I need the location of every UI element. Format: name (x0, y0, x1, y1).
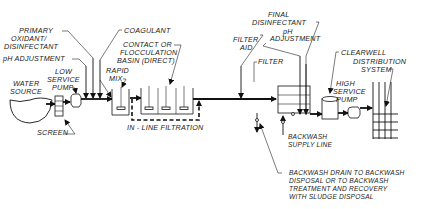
final-disinfectant-label: DISINFECTANT (252, 18, 307, 27)
backwash-drain-label: BACKWASH DRAIN TO BACKWASH (289, 169, 405, 176)
flocculation-basin (141, 86, 193, 114)
water-source-label: SOURCE (10, 87, 42, 96)
leader-line (260, 124, 282, 173)
leader-line (386, 69, 393, 106)
coagulant-label: COAGULANT (124, 26, 171, 35)
leader-line (72, 59, 86, 66)
backwash-supply-label: SUPPLY LINE (288, 141, 332, 148)
primary-oxidant-label: DISINFECTANT (4, 42, 59, 51)
contact-basin-label: BASIN (DIRECT) (117, 56, 175, 65)
leader-line (263, 43, 300, 56)
high-service-pump-label: PUMP (336, 95, 358, 104)
backwash-drain-label: TREATMENT AND RECOVERY (289, 185, 388, 192)
low-service-pump (71, 94, 81, 107)
process-flow-diagram: WATER SOURCE SCREEN LOW SERVICE PUMP PRI… (0, 0, 423, 209)
distribution-system-label: SYSTEM (361, 65, 392, 74)
valve-icon (292, 113, 295, 116)
clearwell-label: CLEARWELL (341, 48, 386, 57)
leader-line (62, 31, 93, 58)
backwash-drain-label: WITH SLUDGE DISPOSAL (289, 193, 374, 200)
valve-icon (282, 121, 285, 124)
low-service-pump-label: PUMP (52, 83, 74, 92)
screen (55, 96, 63, 116)
backwash-drain-label: DISPOSAL OR TO BACKWASH (289, 177, 389, 184)
distribution-system (373, 82, 398, 139)
rapid-mix-tank (112, 87, 129, 115)
valve-icon (256, 119, 259, 122)
filter-aid-label: AID (239, 43, 253, 52)
ph-adjustment-label: pH ADJUSTMENT (2, 54, 65, 63)
leader-line (122, 79, 126, 87)
high-service-pump (348, 107, 360, 118)
in-line-filtration-label: IN - LINE FILTRATION (127, 123, 204, 132)
rapid-mix-label: MIX (109, 74, 123, 83)
backwash-supply-label: BACKWASH (288, 133, 327, 140)
screen-label: SCREEN (37, 128, 69, 137)
filter-label: FILTER (258, 57, 283, 66)
filter (278, 86, 310, 113)
water-source (10, 98, 52, 123)
leader-line (254, 62, 257, 82)
